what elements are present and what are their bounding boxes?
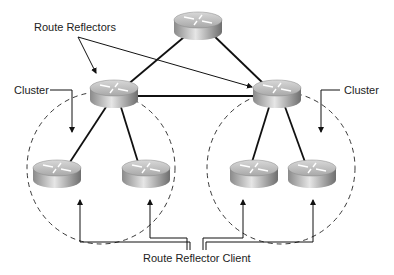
client-router-2 [122,160,170,188]
bgp-route-reflector-diagram [0,0,394,275]
route-reflector-client-label: Route Reflector Client [143,252,251,264]
client-router-1 [33,160,81,188]
client-router-4 [288,160,336,188]
client-router-3 [230,160,278,188]
cluster-right-label: Cluster [344,84,379,96]
cluster-left-label: Cluster [14,84,49,96]
route-reflector-left [90,80,138,108]
router-top [174,12,222,40]
route-reflectors-label: Route Reflectors [34,21,116,33]
route-reflector-right [253,80,301,108]
